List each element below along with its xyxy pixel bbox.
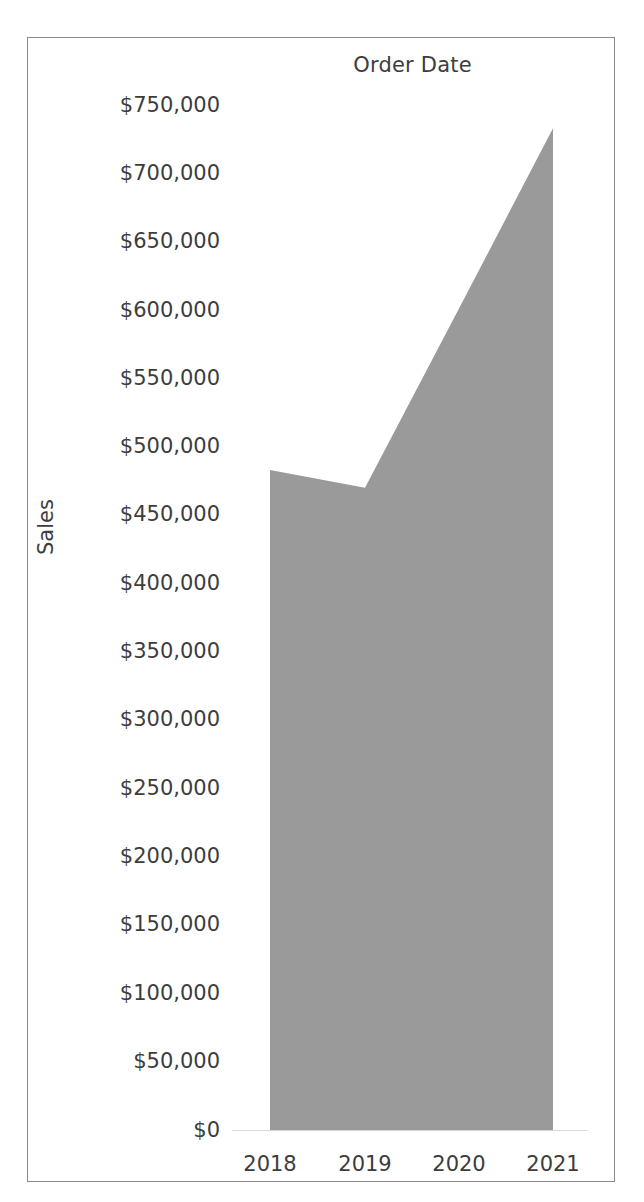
y-axis-tick-label: $600,000 xyxy=(60,298,220,322)
y-axis-tick-label: $300,000 xyxy=(60,707,220,731)
chart-title: Order Date xyxy=(240,53,585,77)
y-axis-tick-label: $700,000 xyxy=(60,161,220,185)
y-axis-tick-label: $550,000 xyxy=(60,366,220,390)
y-axis-tick-label: $500,000 xyxy=(60,434,220,458)
chart-root: Order Date Sales $750,000$700,000$650,00… xyxy=(0,0,644,1202)
y-axis-tick-label: $100,000 xyxy=(60,981,220,1005)
x-axis-tick-labels: 2018201920202021 xyxy=(0,1152,644,1182)
y-axis-tick-label: $50,000 xyxy=(60,1049,220,1073)
y-axis-tick-label: $0 xyxy=(60,1118,220,1142)
y-axis-tick-label: $200,000 xyxy=(60,844,220,868)
y-axis-title: Sales xyxy=(34,499,58,555)
y-axis-tick-label: $150,000 xyxy=(60,912,220,936)
y-axis-tick-label: $350,000 xyxy=(60,639,220,663)
x-axis-baseline xyxy=(232,1130,587,1131)
y-axis-tick-label: $400,000 xyxy=(60,571,220,595)
y-axis-tick-label: $750,000 xyxy=(60,93,220,117)
y-axis-tick-label: $250,000 xyxy=(60,776,220,800)
y-axis-tick-labels: $750,000$700,000$650,000$600,000$550,000… xyxy=(60,0,220,1202)
y-axis-tick-label: $650,000 xyxy=(60,229,220,253)
x-axis-tick-label: 2021 xyxy=(493,1152,613,1176)
y-axis-tick-label: $450,000 xyxy=(60,502,220,526)
